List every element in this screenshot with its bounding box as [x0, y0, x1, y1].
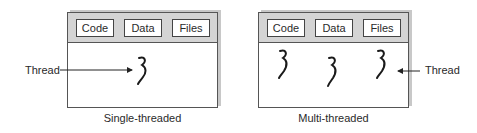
threads-overlay [0, 0, 477, 133]
thread-squiggle-icon [328, 58, 336, 86]
thread-squiggle-icon [138, 58, 146, 84]
thread-squiggle-icon [377, 51, 385, 78]
thread-squiggle-icon [279, 51, 287, 78]
